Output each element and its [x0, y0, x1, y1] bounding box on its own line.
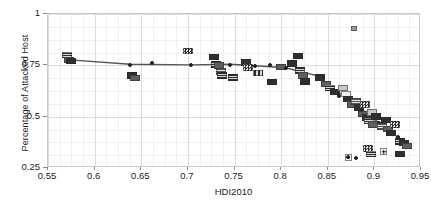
data-point-marker: [128, 63, 132, 67]
data-point-marker: [130, 75, 140, 82]
y-tick-mark: [43, 167, 47, 168]
data-point-marker: [390, 121, 400, 128]
data-point-marker: [287, 60, 297, 67]
data-point-marker: [395, 151, 405, 158]
x-tick-mark: [420, 167, 421, 170]
x-tick-mark: [187, 167, 188, 170]
x-tick-mark: [140, 167, 141, 170]
data-point-marker: [386, 130, 396, 137]
y-tick-label: 0.25: [0, 161, 40, 172]
y-tick-label: 0.5: [0, 110, 40, 121]
data-point-marker: [402, 143, 412, 150]
x-tick-label: 0.85: [307, 170, 347, 181]
x-axis-title: HDI2010: [47, 186, 420, 197]
data-point-marker: [253, 70, 263, 77]
x-tick-mark: [94, 167, 95, 170]
y-tick-label: 0.75: [0, 58, 40, 69]
x-tick-label: 0.65: [120, 170, 160, 181]
x-tick-mark: [373, 167, 374, 170]
data-point-marker: [354, 156, 358, 160]
y-tick-mark: [43, 13, 47, 14]
y-axis-title: Percentage of Attacked Host: [20, 8, 30, 178]
x-tick-label: 0.75: [214, 170, 254, 181]
data-point-marker: [189, 63, 193, 67]
data-point-marker: [267, 79, 277, 86]
x-tick-label: 0.6: [74, 170, 114, 181]
data-point-marker: [351, 26, 357, 31]
plot-area: [47, 13, 420, 167]
x-tick-mark: [47, 167, 48, 170]
data-point-marker: [268, 63, 272, 67]
data-point-marker: [253, 64, 257, 68]
data-point-marker: [366, 151, 376, 158]
x-tick-label: 0.7: [167, 170, 207, 181]
data-point-marker: [380, 148, 387, 155]
x-tick-label: 0.8: [260, 170, 300, 181]
x-tick-mark: [280, 167, 281, 170]
data-point-marker: [300, 78, 310, 85]
data-point-marker: [228, 74, 238, 81]
data-point-marker: [360, 101, 370, 108]
y-tick-mark: [43, 116, 47, 117]
y-tick-mark: [43, 64, 47, 65]
x-tick-label: 0.9: [353, 170, 393, 181]
data-point-marker: [183, 48, 193, 55]
data-point-marker: [345, 154, 352, 161]
data-point-marker: [217, 72, 227, 79]
x-tick-mark: [234, 167, 235, 170]
x-tick-mark: [327, 167, 328, 170]
y-tick-label: 1: [0, 7, 40, 18]
x-tick-label: 0.95: [400, 170, 431, 181]
data-point-marker: [66, 58, 76, 65]
data-point-marker: [209, 54, 219, 61]
scatter-chart: Percentage of Attacked Host 0.550.60.650…: [0, 0, 431, 205]
data-point-marker: [293, 53, 303, 60]
trend-line: [48, 14, 420, 167]
